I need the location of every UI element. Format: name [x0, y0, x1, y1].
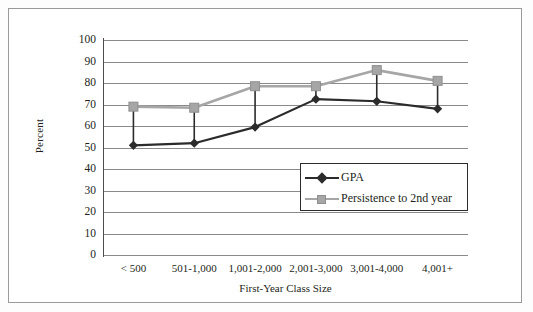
- x-tick-label-2: 1,001-2,000: [228, 262, 281, 274]
- y-tick-label-40: 40: [60, 163, 96, 175]
- x-axis-title: First-Year Class Size: [103, 282, 468, 294]
- gridline-70: [103, 105, 468, 106]
- x-tick-label-5: 4,001+: [422, 262, 453, 274]
- legend-label-persistence: Persistence to 2nd year: [339, 192, 452, 205]
- x-axis-tick-labels: < 500501-1,0001,001-2,0002,001-3,0003,00…: [103, 262, 468, 278]
- y-tick-label-20: 20: [60, 206, 96, 218]
- y-tick-label-30: 30: [60, 185, 96, 197]
- gridline-90: [103, 62, 468, 63]
- y-axis-tick-labels: 0102030405060708090100: [56, 0, 96, 312]
- y-axis-title: Percent: [33, 91, 45, 181]
- gridline-0: [103, 255, 468, 256]
- y-tick-label-10: 10: [60, 228, 96, 240]
- legend-key-gpa: [305, 172, 339, 184]
- y-tick-label-60: 60: [60, 120, 96, 132]
- y-tick-label-90: 90: [60, 56, 96, 68]
- legend-item-persistence[interactable]: Persistence to 2nd year: [305, 188, 461, 209]
- gridline-80: [103, 83, 468, 84]
- y-tick-label-50: 50: [60, 142, 96, 154]
- y-tick-label-70: 70: [60, 99, 96, 111]
- chart-legend[interactable]: GPA Persistence to 2nd year: [300, 163, 468, 211]
- x-tick-label-0: < 500: [121, 262, 146, 274]
- x-tick-label-4: 3,001-4,000: [350, 262, 403, 274]
- y-axis-line: [103, 38, 104, 257]
- x-tick-label-1: 501-1,000: [172, 262, 217, 274]
- y-tick-label-0: 0: [60, 249, 96, 261]
- legend-key-persistence: [305, 193, 339, 205]
- gridline-10: [103, 234, 468, 235]
- y-tick-label-100: 100: [60, 34, 96, 46]
- gridline-50: [103, 148, 468, 149]
- legend-item-gpa[interactable]: GPA: [305, 167, 461, 188]
- gridline-60: [103, 126, 468, 127]
- diamond-marker-icon: [316, 172, 327, 183]
- legend-label-gpa: GPA: [339, 171, 364, 184]
- square-marker-icon: [317, 195, 326, 204]
- figure-container: Percent 0102030405060708090100 < 500501-…: [0, 0, 533, 312]
- gridline-20: [103, 212, 468, 213]
- y-tick-label-80: 80: [60, 77, 96, 89]
- x-tick-label-3: 2,001-3,000: [289, 262, 342, 274]
- gridline-100: [103, 40, 468, 41]
- plot-area: [103, 40, 468, 255]
